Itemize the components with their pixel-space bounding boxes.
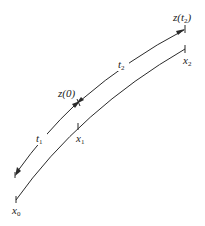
arrowhead-zt2 [176, 29, 185, 35]
label-x1: x1 [75, 132, 85, 146]
label-x0: x0 [11, 204, 21, 218]
lower-curve [16, 49, 185, 200]
trajectory-diagram: z(0) z(t2) t1 t2 x0 x1 x2 [0, 0, 205, 226]
label-x2: x2 [182, 54, 192, 68]
label-zt2: z(t2) [172, 11, 192, 25]
upper-curve-t2 [80, 30, 184, 101]
label-z0: z(0) [57, 87, 75, 100]
